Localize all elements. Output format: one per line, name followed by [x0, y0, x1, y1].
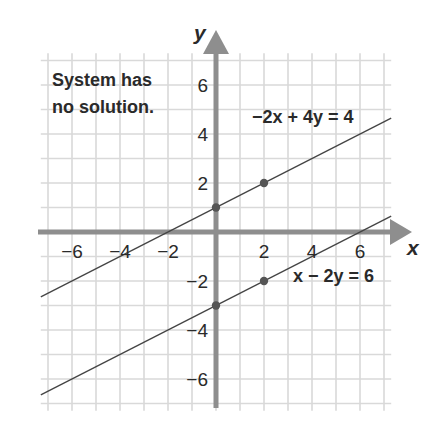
- y-axis-arrow-icon: [203, 30, 229, 54]
- y-tick-label: 6: [197, 75, 208, 96]
- equation-label-1: −2x + 4y = 4: [252, 107, 354, 127]
- x-axis-label: x: [406, 236, 420, 259]
- x-tick-label: 6: [355, 241, 366, 262]
- y-axis-label: y: [193, 21, 207, 44]
- annotation-line-2: no solution.: [52, 97, 154, 117]
- x-tick-label: 2: [259, 241, 270, 262]
- data-point-icon: [260, 277, 268, 285]
- y-tick-label: 2: [197, 173, 208, 194]
- data-point-icon: [212, 301, 220, 309]
- x-tick-label: −6: [61, 241, 83, 262]
- equation-label-2: x − 2y = 6: [293, 266, 374, 286]
- data-point-icon: [212, 203, 220, 211]
- x-tick-label: −2: [157, 241, 179, 262]
- y-tick-label: −2: [186, 271, 208, 292]
- y-tick-label: −4: [186, 320, 208, 341]
- data-point-icon: [260, 179, 268, 187]
- coordinate-plane: −6−4−2246642−2−4−6 y x System has no sol…: [0, 0, 446, 429]
- annotation-line-1: System has: [52, 70, 152, 90]
- x-tick-label: 4: [307, 241, 318, 262]
- y-tick-label: 4: [197, 124, 208, 145]
- y-tick-label: −6: [186, 369, 208, 390]
- x-tick-label: −4: [109, 241, 131, 262]
